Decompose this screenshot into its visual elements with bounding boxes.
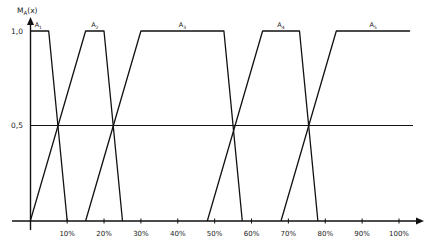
x-tick-label: 20% bbox=[96, 230, 112, 238]
series-group: A1A2A3A4A5 bbox=[30, 21, 410, 221]
x-axis: 10%20%30%40%50%60%70%80%90%100% bbox=[12, 218, 424, 239]
x-tick-label: 100% bbox=[389, 230, 409, 238]
series-label-a1: A1 bbox=[35, 21, 42, 30]
x-tick-label: 10% bbox=[59, 230, 75, 238]
y-tick-label-1: 1,0 bbox=[11, 27, 23, 36]
series-label-a5: A5 bbox=[370, 21, 377, 30]
x-tick-label: 40% bbox=[170, 230, 186, 238]
series-label-a2: A2 bbox=[91, 21, 98, 30]
x-tick-label: 70% bbox=[281, 230, 297, 238]
x-tick-label: 30% bbox=[133, 230, 149, 238]
y-axis-arrow-icon bbox=[27, 17, 34, 25]
x-tick-label: 50% bbox=[207, 230, 223, 238]
membership-function-chart: MA(x) 1,0 0,5 10%20%30%40%50%60%70%80%90… bbox=[0, 0, 433, 248]
x-tick-label: 90% bbox=[354, 230, 370, 238]
x-axis-arrow-icon bbox=[416, 218, 424, 225]
y-axis-label: MA(x) bbox=[17, 6, 38, 16]
series-label-a3: A3 bbox=[179, 21, 186, 30]
y-axis: MA(x) 1,0 0,5 bbox=[11, 6, 38, 230]
y-tick-label-0-5: 0,5 bbox=[11, 121, 23, 130]
x-tick-label: 80% bbox=[317, 230, 333, 238]
series-label-a4: A4 bbox=[277, 21, 284, 30]
x-tick-label: 60% bbox=[244, 230, 260, 238]
